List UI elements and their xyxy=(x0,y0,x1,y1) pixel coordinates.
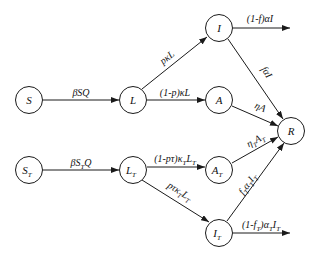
edge-label-LT-IT: pτκTLT xyxy=(163,179,195,206)
edge-IT-R xyxy=(227,143,284,221)
node-LT: LT xyxy=(120,157,147,184)
edge-label-ST-LT: βSTQ xyxy=(69,157,92,171)
compartment-diagram: S L I A R ST LT AT IT βSQ pκL (1-p)κL (1… xyxy=(0,0,315,259)
edge-label-S-L: βSQ xyxy=(71,87,90,98)
edge-L-I xyxy=(142,37,207,89)
node-A: A xyxy=(206,87,233,114)
edge-label-I-out: (1-f)αI xyxy=(247,13,274,25)
edge-label-AT-R: ηTAT xyxy=(244,130,268,152)
edge-label-IT-out: (1-fT)αTIT xyxy=(242,219,281,233)
node-L-label: L xyxy=(129,94,136,106)
edge-label-LT-AT: (1-pτ)κTLT xyxy=(154,153,197,167)
edge-label-I-R: fαI xyxy=(259,64,275,80)
node-R: R xyxy=(278,118,305,145)
node-A-label: A xyxy=(215,94,223,106)
node-S: S xyxy=(16,87,43,114)
node-I: I xyxy=(206,15,233,42)
node-L: L xyxy=(120,87,147,114)
edge-label-IT-R: fTαTIT xyxy=(236,170,262,198)
node-IT: IT xyxy=(206,220,233,247)
node-S-label: S xyxy=(26,94,32,106)
edge-label-L-A: (1-p)κL xyxy=(160,87,191,99)
edge-label-A-R: ηA xyxy=(253,100,268,115)
node-R-label: R xyxy=(287,125,295,137)
node-AT: AT xyxy=(206,157,233,184)
node-ST: ST xyxy=(16,157,43,184)
